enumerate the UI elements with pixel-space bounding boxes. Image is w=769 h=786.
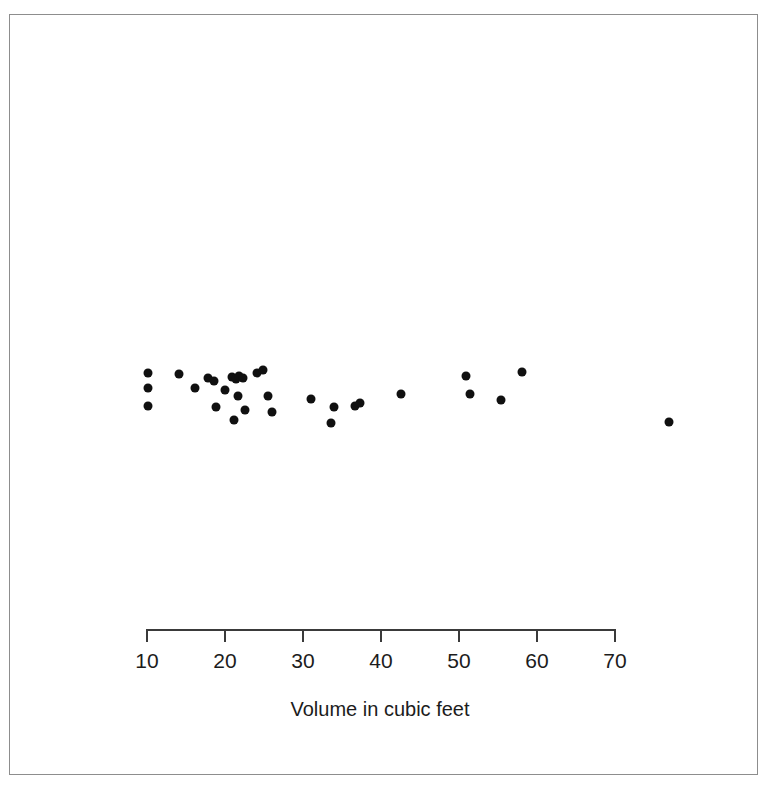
data-point: [466, 390, 475, 399]
data-point: [174, 370, 183, 379]
data-point: [144, 369, 153, 378]
figure-page: 10203040506070 Volume in cubic feet: [0, 0, 769, 786]
data-point: [461, 371, 470, 380]
figure-frame: 10203040506070 Volume in cubic feet: [9, 14, 758, 775]
data-point: [397, 390, 406, 399]
data-point: [209, 377, 218, 386]
data-point: [212, 403, 221, 412]
data-point: [230, 415, 239, 424]
data-point: [263, 392, 272, 401]
data-point: [329, 403, 338, 412]
data-point: [326, 418, 335, 427]
data-point: [307, 394, 316, 403]
data-point: [220, 385, 229, 394]
plot-area: [10, 15, 759, 776]
data-point: [496, 395, 505, 404]
data-point: [664, 417, 673, 426]
data-point: [355, 399, 364, 408]
x-axis-title: Volume in cubic feet: [291, 698, 470, 721]
data-point: [144, 383, 153, 392]
data-point: [268, 407, 277, 416]
data-point: [234, 392, 243, 401]
data-point: [144, 402, 153, 411]
data-point: [191, 383, 200, 392]
data-point: [241, 405, 250, 414]
data-point: [238, 373, 247, 382]
data-point: [259, 366, 268, 375]
data-point: [517, 368, 526, 377]
